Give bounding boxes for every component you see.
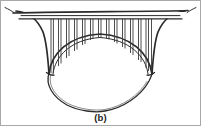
arch-rib-group	[49, 34, 152, 74]
lower-outline-path	[48, 73, 152, 112]
bridge-deck-group	[5, 8, 196, 19]
right-abutment-flare-path	[152, 11, 185, 74]
lower-outline-group	[48, 73, 152, 112]
springing-joints-group	[47, 73, 155, 76]
arch-rib-outer-path	[49, 34, 152, 74]
left-abutment-flare-path	[16, 11, 49, 74]
abutment-flares-group	[16, 11, 185, 74]
arch-rib-inner-path	[53, 38, 148, 75]
arch-bridge-drawing	[1, 1, 200, 125]
figure-caption: (b)	[1, 112, 200, 123]
lower-outline-inner-path	[50, 74, 147, 110]
deck-left-tip-path	[5, 8, 14, 13]
figure-container: (b)	[0, 0, 201, 126]
